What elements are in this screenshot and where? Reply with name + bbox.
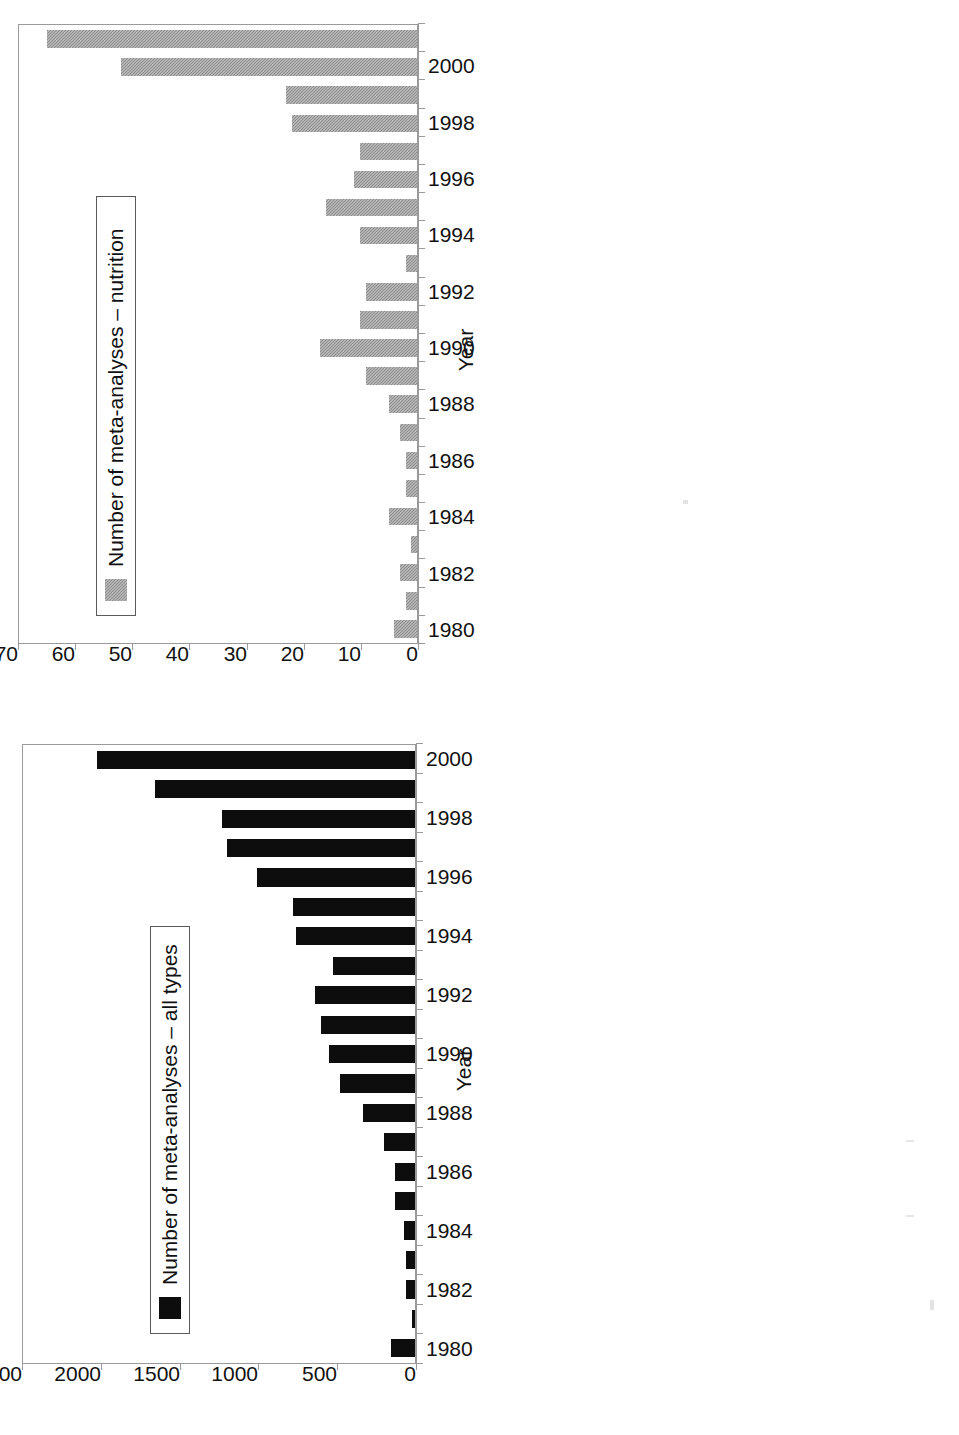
category-tick [418, 643, 425, 644]
category-tick [416, 1009, 423, 1010]
category-tick [416, 832, 423, 833]
bar [329, 1045, 415, 1063]
legend-nutrition: Number of meta-analyses – nutrition [96, 196, 136, 616]
bar-slot [23, 1069, 415, 1098]
category-tick [418, 51, 425, 52]
category-tick-label: 1994 [426, 924, 473, 948]
bar [222, 810, 415, 828]
bar [395, 1192, 415, 1210]
bar-slot [19, 81, 417, 109]
bar [293, 898, 415, 916]
category-axis-all-types: 1980198219841986198819901992199419961998… [416, 744, 417, 1364]
category-tick [416, 1245, 423, 1246]
bar [340, 1074, 415, 1092]
value-tick [418, 643, 419, 650]
category-tick-label: 1998 [426, 806, 473, 830]
bar [354, 171, 417, 188]
bar [400, 564, 417, 581]
value-tick [416, 1363, 417, 1370]
bar [97, 751, 415, 769]
category-tick-label: 1996 [428, 167, 475, 191]
bar-slot [23, 1245, 415, 1274]
category-tick [418, 79, 425, 80]
bar-slot [19, 615, 417, 643]
bar-slot [19, 109, 417, 137]
category-tick [418, 502, 425, 503]
category-tick [416, 1156, 423, 1157]
bar [404, 1221, 415, 1239]
plot-area-nutrition [18, 24, 418, 644]
bar [389, 508, 417, 525]
value-tick-label: 2500 [0, 1362, 22, 1386]
category-tick [416, 1304, 423, 1305]
value-tick-label: 70 [0, 642, 18, 666]
bar [391, 1339, 415, 1357]
legend-swatch-icon-nutrition [105, 579, 127, 601]
category-tick [418, 305, 425, 306]
category-tick [418, 389, 425, 390]
bar-slot [19, 278, 417, 306]
bar-slot [19, 137, 417, 165]
category-tick [416, 891, 423, 892]
scan-artifact [906, 1215, 914, 1217]
category-tick-label: 1984 [428, 505, 475, 529]
value-tick [258, 1363, 259, 1370]
category-tick-label: 1998 [428, 111, 475, 135]
value-tick-label: 1500 [133, 1362, 180, 1386]
bar-slot [19, 418, 417, 446]
value-tick [189, 643, 190, 650]
chart-all-types: 25002000150010005000 1980198219841986198… [0, 720, 479, 1420]
bar-slot [23, 1334, 415, 1363]
panel-nutrition: 706050403020100 198019821984198619881990… [0, 0, 479, 720]
value-tick-label: 0 [406, 642, 418, 666]
scan-artifact [683, 500, 688, 504]
category-tick [416, 1068, 423, 1069]
bar [412, 1310, 415, 1328]
category-tick-label: 1992 [426, 983, 473, 1007]
category-tick-label: 2000 [428, 54, 475, 78]
category-tick-label: 1982 [428, 562, 475, 586]
value-axis-all-types: 25002000150010005000 [22, 1363, 416, 1364]
category-tick [418, 164, 425, 165]
bar [360, 143, 417, 160]
bar-slot [19, 194, 417, 222]
bar-slot [19, 334, 417, 362]
category-tick [416, 1097, 423, 1098]
category-tick [418, 558, 425, 559]
category-tick [418, 530, 425, 531]
category-tick-label: 2000 [426, 747, 473, 771]
category-tick [416, 979, 423, 980]
bar [292, 115, 417, 132]
category-tick [416, 1127, 423, 1128]
category-tick [416, 773, 423, 774]
axis-title-year-all-types: Year [452, 1049, 476, 1091]
value-tick [18, 643, 19, 650]
category-tick [416, 1186, 423, 1187]
value-tick-label: 50 [109, 642, 132, 666]
bar-slot [23, 863, 415, 892]
value-tick [132, 643, 133, 650]
bar [400, 424, 417, 441]
value-tick [75, 643, 76, 650]
category-tick-label: 1986 [428, 449, 475, 473]
bar [333, 957, 415, 975]
bar [389, 396, 417, 413]
bar [315, 986, 415, 1004]
bar-slot [23, 1039, 415, 1068]
bar [360, 311, 417, 328]
legend-label-nutrition: Number of meta-analyses – nutrition [104, 229, 128, 568]
bar-slot [23, 1128, 415, 1157]
bar [366, 367, 417, 384]
bar [155, 780, 415, 798]
bar-slot [19, 446, 417, 474]
category-tick [418, 277, 425, 278]
category-tick [418, 248, 425, 249]
bar-slot [19, 362, 417, 390]
bar-group-all-types [23, 745, 415, 1363]
category-tick [418, 587, 425, 588]
value-tick-label: 20 [280, 642, 303, 666]
bar-slot [23, 1157, 415, 1186]
value-tick-label: 1000 [212, 1362, 259, 1386]
value-tick-label: 10 [337, 642, 360, 666]
category-tick [418, 108, 425, 109]
